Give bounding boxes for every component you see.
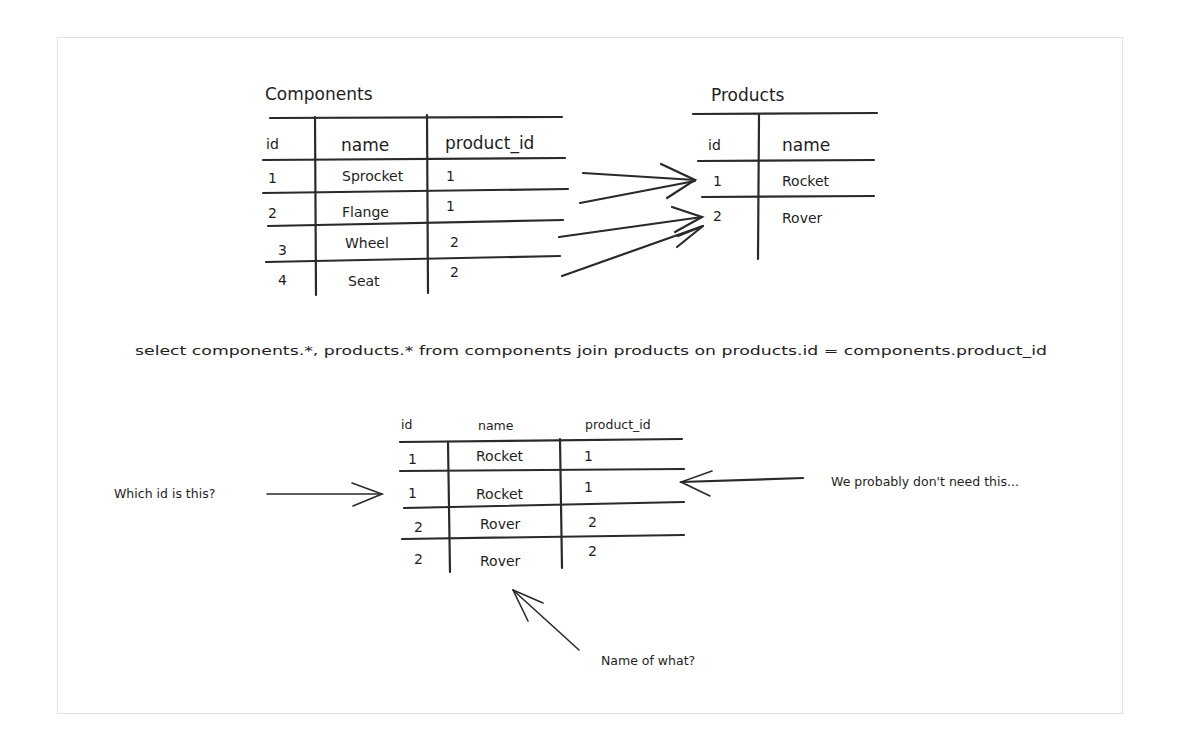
- foreign-key-arrows: [559, 164, 703, 276]
- table-rule: [402, 535, 684, 539]
- table-rule: [263, 189, 568, 193]
- table-divider: [560, 439, 562, 568]
- cell-product-id: 1: [446, 198, 455, 214]
- table-row: 1 Rocket: [713, 173, 830, 189]
- cell-name: Rover: [782, 210, 823, 226]
- table-divider: [315, 117, 316, 295]
- annotation-which-id: Which id is this?: [114, 483, 382, 506]
- cell-id: 1: [713, 173, 722, 189]
- cell-product-id: 2: [588, 514, 597, 530]
- cell-name: Flange: [342, 204, 389, 220]
- products-header-name: name: [782, 135, 830, 155]
- arrow-right-icon: [267, 483, 382, 506]
- cell-product-id: 1: [584, 448, 593, 464]
- cell-name: Sprocket: [342, 168, 404, 184]
- result-table: id name product_id 1 Rocket 1 1 Rocket 1…: [400, 417, 684, 572]
- cell-name: Rocket: [476, 486, 524, 502]
- table-rule: [266, 256, 560, 262]
- products-table-title: Products: [711, 85, 785, 105]
- arrow-sprocket-to-rocket: [583, 164, 695, 198]
- cell-product-id: 2: [450, 264, 459, 280]
- cell-product-id: 1: [446, 168, 455, 184]
- table-rule: [400, 439, 682, 442]
- cell-name: Rocket: [782, 173, 830, 189]
- components-table: Components id name product_id 1 Sprocket…: [263, 84, 568, 295]
- table-rule: [404, 502, 684, 508]
- arrow-wheel-to-rover: [559, 207, 702, 237]
- cell-id: 1: [408, 485, 417, 501]
- annotation-dont-need-text: We probably don't need this...: [831, 474, 1019, 489]
- table-rule: [693, 113, 877, 114]
- arrow-left-icon: [681, 471, 803, 496]
- cell-id: 2: [268, 205, 277, 221]
- components-table-title: Components: [265, 84, 373, 104]
- table-row: 1 Rocket 1: [408, 448, 593, 467]
- cell-name: Seat: [348, 273, 380, 289]
- arrow-up-left-icon: [513, 590, 579, 650]
- components-header-product-id: product_id: [445, 133, 534, 154]
- cell-id: 3: [278, 242, 287, 258]
- cell-id: 2: [414, 519, 423, 535]
- cell-id: 1: [408, 451, 417, 467]
- cell-id: 2: [713, 208, 722, 224]
- table-rule: [400, 469, 684, 471]
- annotation-name-of-what-text: Name of what?: [601, 653, 695, 668]
- products-header-id: id: [708, 137, 721, 153]
- table-divider: [758, 115, 759, 259]
- table-divider: [427, 115, 428, 293]
- result-header-id: id: [401, 417, 412, 432]
- table-row: 2 Rover 2: [414, 514, 597, 535]
- table-row: 2 Rover: [713, 208, 823, 226]
- components-header-id: id: [266, 136, 279, 152]
- table-row: 1 Rocket 1: [408, 479, 593, 502]
- cell-id: 2: [414, 551, 423, 567]
- cell-product-id: 2: [450, 234, 459, 250]
- cell-name: Rover: [480, 516, 521, 532]
- cell-name: Rover: [480, 553, 521, 569]
- table-divider: [448, 442, 450, 572]
- cell-product-id: 2: [588, 543, 597, 559]
- table-rule: [268, 220, 563, 226]
- sql-query: select components.*, products.* from com…: [135, 343, 1047, 358]
- table-row: 2 Rover 2: [414, 543, 597, 569]
- result-header-product-id: product_id: [585, 417, 651, 432]
- table-row: 4 Seat 2: [278, 264, 459, 289]
- annotation-name-of-what: Name of what?: [513, 590, 695, 668]
- products-table: Products id name 1 Rocket 2 Rover: [693, 85, 877, 259]
- annotation-dont-need: We probably don't need this...: [681, 471, 1019, 496]
- join-diagram: Components id name product_id 1 Sprocket…: [0, 0, 1177, 751]
- cell-id: 1: [268, 170, 277, 186]
- cell-name: Rocket: [476, 448, 524, 464]
- cell-id: 4: [278, 272, 287, 288]
- table-rule: [263, 158, 565, 160]
- cell-name: Wheel: [345, 235, 389, 251]
- table-rule: [698, 160, 874, 161]
- table-rule: [270, 117, 562, 118]
- components-header-name: name: [341, 135, 389, 155]
- table-row: 3 Wheel 2: [278, 234, 459, 258]
- cell-product-id: 1: [584, 479, 593, 495]
- annotation-which-id-text: Which id is this?: [114, 486, 215, 501]
- table-rule: [702, 196, 874, 197]
- result-header-name: name: [478, 418, 514, 433]
